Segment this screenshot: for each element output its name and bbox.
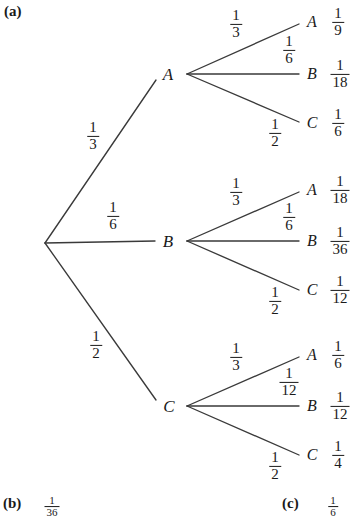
edge-A-leafC <box>187 74 299 122</box>
edge-B-leafA <box>187 192 299 241</box>
fraction-denominator: 6 <box>283 50 295 67</box>
edge-label-A-leafA: 1 3 <box>230 8 242 40</box>
fraction-denominator: 9 <box>332 22 344 39</box>
edge-label-root-A: 1 3 <box>87 120 99 152</box>
fraction-denominator: 4 <box>332 455 344 472</box>
edge-label-C-leafA: 1 3 <box>230 341 242 373</box>
edge-A-leafA <box>187 24 299 74</box>
fraction-denominator: 2 <box>269 133 281 150</box>
leaf-outcome-C-C: 1 4 <box>332 439 344 471</box>
edge-root-C <box>45 243 156 400</box>
part-c-answer: 1 6 <box>328 495 338 519</box>
fraction-numerator: 1 <box>230 341 242 357</box>
tree-node-B: B <box>163 233 173 250</box>
edge-label-B-leafC: 1 2 <box>269 285 281 317</box>
fraction-numerator: 1 <box>269 285 281 301</box>
edge-label-C-leafC: 1 2 <box>269 450 281 482</box>
fraction-numerator: 1 <box>269 117 281 133</box>
leaf-node-B-B: B <box>307 233 317 249</box>
fraction-denominator: 3 <box>87 136 99 153</box>
edge-B-leafC <box>187 241 299 290</box>
edge-label-B-leafA: 1 3 <box>230 176 242 208</box>
leaf-outcome-B-A: 1 18 <box>331 174 350 206</box>
fraction-denominator: 2 <box>269 301 281 318</box>
fraction-denominator: 12 <box>331 290 350 307</box>
fraction-denominator: 6 <box>107 216 119 233</box>
tree-node-A: A <box>163 66 173 83</box>
part-a-label: (a) <box>4 3 22 20</box>
fraction-numerator: 1 <box>331 58 350 74</box>
fraction-numerator: 1 <box>331 274 350 290</box>
fraction-numerator: 1 <box>87 120 99 136</box>
tree-edges <box>0 0 358 524</box>
leaf-outcome-C-A: 1 6 <box>332 339 344 371</box>
fraction-denominator: 12 <box>331 406 350 423</box>
fraction-denominator: 6 <box>332 355 344 372</box>
leaf-node-C-A: A <box>307 347 317 363</box>
fraction-numerator: 1 <box>331 225 350 241</box>
fraction-denominator: 2 <box>269 466 281 483</box>
edge-label-A-leafC: 1 2 <box>269 117 281 149</box>
fraction-numerator: 1 <box>328 495 338 506</box>
fraction-numerator: 1 <box>332 107 344 123</box>
edge-root-B <box>45 241 155 243</box>
fraction-numerator: 1 <box>280 366 299 382</box>
edge-root-A <box>45 80 156 243</box>
fraction-denominator: 36 <box>45 507 60 519</box>
fraction-denominator: 3 <box>230 192 242 209</box>
edge-label-root-B: 1 6 <box>107 200 119 232</box>
tree-node-C: C <box>163 398 174 415</box>
fraction-denominator: 3 <box>230 24 242 41</box>
fraction-denominator: 12 <box>280 382 299 399</box>
fraction-numerator: 1 <box>45 495 60 506</box>
fraction-denominator: 18 <box>331 74 350 91</box>
fraction-numerator: 1 <box>230 176 242 192</box>
probability-tree-figure: (a) 1 3 1 6 <box>0 0 358 524</box>
fraction-numerator: 1 <box>107 200 119 216</box>
fraction-denominator: 6 <box>332 123 344 140</box>
part-c-label: (c) <box>282 495 299 512</box>
leaf-node-A-B: B <box>307 66 317 82</box>
fraction-numerator: 1 <box>332 6 344 22</box>
fraction-denominator: 36 <box>331 241 350 258</box>
edge-C-leafC <box>187 406 299 455</box>
leaf-outcome-B-C: 1 12 <box>331 274 350 306</box>
leaf-node-B-A: A <box>307 182 317 198</box>
edge-label-A-leafB: 1 6 <box>283 34 295 66</box>
fraction-numerator: 1 <box>331 390 350 406</box>
leaf-node-A-C: C <box>307 115 318 131</box>
edge-label-C-leafB: 1 12 <box>280 366 299 398</box>
leaf-outcome-A-A: 1 9 <box>332 6 344 38</box>
fraction-numerator: 1 <box>269 450 281 466</box>
leaf-node-A-A: A <box>307 14 317 30</box>
fraction-denominator: 6 <box>283 217 295 234</box>
fraction-denominator: 2 <box>90 345 102 362</box>
edge-label-B-leafB: 1 6 <box>283 201 295 233</box>
fraction-numerator: 1 <box>283 201 295 217</box>
leaf-node-C-B: B <box>307 398 317 414</box>
fraction-numerator: 1 <box>283 34 295 50</box>
part-b-label: (b) <box>3 495 21 512</box>
fraction-numerator: 1 <box>332 339 344 355</box>
leaf-outcome-B-B: 1 36 <box>331 225 350 257</box>
fraction-denominator: 18 <box>331 190 350 207</box>
fraction-denominator: 3 <box>230 357 242 374</box>
leaf-outcome-A-B: 1 18 <box>331 58 350 90</box>
fraction-numerator: 1 <box>332 439 344 455</box>
leaf-outcome-A-C: 1 6 <box>332 107 344 139</box>
edge-label-root-C: 1 2 <box>90 329 102 361</box>
fraction-denominator: 6 <box>328 507 338 519</box>
fraction-numerator: 1 <box>331 174 350 190</box>
fraction-numerator: 1 <box>230 8 242 24</box>
leaf-outcome-C-B: 1 12 <box>331 390 350 422</box>
fraction-numerator: 1 <box>90 329 102 345</box>
leaf-node-C-C: C <box>307 447 318 463</box>
leaf-node-B-C: C <box>307 282 318 298</box>
part-b-answer: 1 36 <box>45 495 60 519</box>
